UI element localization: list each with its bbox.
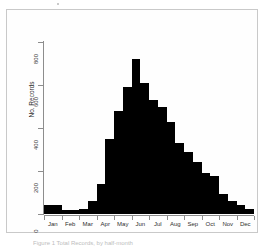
x-axis-tick bbox=[132, 216, 133, 220]
histogram-bar bbox=[167, 122, 176, 214]
histogram-bar bbox=[202, 173, 211, 214]
plot-area bbox=[44, 42, 254, 214]
x-axis-tick-label: Aug bbox=[170, 221, 181, 227]
x-axis-tick-label: Jan bbox=[48, 221, 58, 227]
y-axis-tick-label: 400 bbox=[33, 127, 39, 163]
histogram-bar bbox=[114, 111, 123, 214]
x-axis-tick bbox=[167, 216, 168, 220]
histogram-bar bbox=[44, 205, 53, 214]
x-axis-tick bbox=[149, 216, 150, 220]
x-axis-tick bbox=[97, 216, 98, 220]
x-axis-tick bbox=[237, 216, 238, 220]
histogram-bar bbox=[193, 162, 202, 214]
figure-caption: Figure 1 Total Records, by half-month bbox=[33, 240, 243, 246]
histogram-bar bbox=[79, 209, 88, 214]
histogram-bar bbox=[140, 83, 149, 214]
histogram-bar bbox=[62, 210, 71, 214]
histogram-bars bbox=[44, 42, 254, 214]
x-axis-tick bbox=[62, 216, 63, 220]
x-axis-tick-label: Oct bbox=[206, 221, 215, 227]
x-axis-tick bbox=[184, 216, 185, 220]
y-axis-tick-label: 600 bbox=[33, 84, 39, 120]
x-axis-tick-label: May bbox=[117, 221, 128, 227]
x-axis-tick-label: Feb bbox=[65, 221, 75, 227]
histogram-bar bbox=[184, 152, 193, 214]
histogram-bar bbox=[70, 210, 79, 214]
y-axis-tick-label: 800 bbox=[33, 41, 39, 77]
histogram-bar bbox=[237, 205, 246, 214]
histogram-bar bbox=[105, 139, 114, 214]
x-axis-tick bbox=[219, 216, 220, 220]
histogram-bar bbox=[53, 205, 62, 214]
x-axis-tick-label: Dec bbox=[240, 221, 251, 227]
histogram-bar bbox=[158, 107, 167, 215]
x-axis-tick bbox=[79, 216, 80, 220]
x-axis-tick-label: Jul bbox=[154, 221, 162, 227]
histogram-bar bbox=[175, 143, 184, 214]
histogram-bar bbox=[132, 59, 141, 214]
x-axis-tick bbox=[202, 216, 203, 220]
histogram-bar bbox=[88, 201, 97, 214]
x-axis-tick-label: Apr bbox=[101, 221, 110, 227]
histogram-bar bbox=[97, 184, 106, 214]
histogram-bar bbox=[228, 201, 237, 214]
x-axis-tick-label: Jun bbox=[135, 221, 145, 227]
scan-speck bbox=[57, 3, 59, 5]
histogram-bar bbox=[245, 209, 254, 214]
histogram-bar bbox=[149, 100, 158, 214]
histogram-bar bbox=[123, 87, 132, 214]
x-axis-tick bbox=[254, 216, 255, 220]
y-axis-tick-label: 200 bbox=[33, 170, 39, 206]
figure-page: No. Records 0200400600800 JanFebMarAprMa… bbox=[0, 0, 265, 250]
x-axis-tick-label: Sep bbox=[187, 221, 198, 227]
x-axis-tick bbox=[44, 216, 45, 220]
x-axis-tick-label: Mar bbox=[83, 221, 93, 227]
x-axis-tick-label: Nov bbox=[222, 221, 233, 227]
histogram-bar bbox=[210, 176, 219, 214]
histogram-bar bbox=[219, 194, 228, 214]
x-axis-tick bbox=[114, 216, 115, 220]
